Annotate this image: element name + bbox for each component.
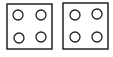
- circle-icon: [92, 9, 102, 19]
- two-boxes-diagram: [0, 0, 113, 57]
- box-2: [63, 3, 108, 49]
- circle-icon: [36, 10, 46, 20]
- circle-icon: [14, 33, 24, 43]
- box-outline: [7, 4, 52, 49]
- circle-icon: [70, 32, 80, 42]
- box-1: [7, 4, 52, 49]
- circle-icon: [36, 32, 46, 42]
- box-outline: [63, 3, 108, 49]
- circle-icon: [70, 10, 80, 20]
- circle-icon: [13, 10, 23, 20]
- circle-icon: [92, 32, 102, 42]
